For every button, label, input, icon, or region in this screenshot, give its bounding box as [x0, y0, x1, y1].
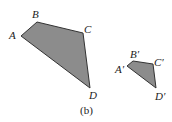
vertex-label-c-prime: C′: [154, 56, 164, 68]
vertex-label-b: B: [32, 8, 39, 20]
figure-caption: (b): [80, 104, 93, 117]
vertex-label-a-prime: A′: [114, 63, 125, 75]
vertex-label-b-prime: B′: [130, 48, 140, 60]
quadrilateral-a-prime-b-prime-c-prime-d-prime: [127, 61, 156, 88]
vertex-label-d: D: [88, 89, 97, 101]
vertex-label-d-prime: D′: [154, 90, 166, 102]
vertex-label-a: A: [8, 29, 16, 41]
similar-quadrilaterals-figure: A B C D A′ B′ C′ D′ (b): [0, 0, 172, 122]
quadrilateral-abcd: [21, 22, 90, 88]
vertex-label-c: C: [84, 23, 92, 35]
